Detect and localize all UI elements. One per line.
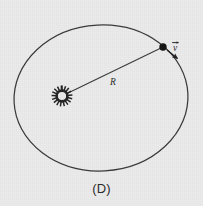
figure-panel: R v (D) [0, 0, 203, 206]
velocity-label-group: v [172, 41, 178, 53]
figure-caption: (D) [0, 181, 203, 196]
velocity-label: v [173, 43, 178, 53]
orbit-diagram-canvas: R v [0, 0, 203, 206]
planet-dot [159, 43, 166, 50]
sun-icon [52, 86, 73, 107]
velocity-label-overbar-tip [177, 41, 179, 44]
radius-line [66, 48, 161, 94]
radius-label: R [109, 77, 116, 87]
